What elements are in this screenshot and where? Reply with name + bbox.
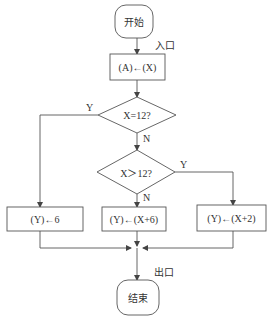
entry-label: 入口 bbox=[155, 41, 175, 51]
assign-label: (A)←(X) bbox=[110, 54, 165, 80]
decision-gt-label: X＞12? bbox=[97, 150, 175, 194]
start-label: 开始 bbox=[115, 5, 153, 38]
gt-yes-label: Y bbox=[180, 160, 187, 170]
proc-left-label: (Y)←6 bbox=[7, 207, 83, 231]
edge-gt-yes bbox=[175, 172, 233, 205]
edge-eq-yes bbox=[40, 115, 98, 207]
gt-no-label: N bbox=[143, 193, 150, 203]
eq-yes-label: Y bbox=[86, 103, 93, 113]
edge-right-merge bbox=[143, 231, 233, 248]
exit-label: 出口 bbox=[154, 268, 174, 278]
edge-left-merge bbox=[40, 231, 131, 248]
end-label: 结束 bbox=[117, 280, 159, 315]
proc-mid-label: (Y)←(X+6) bbox=[102, 207, 166, 231]
proc-right-label: (Y)←(X+2) bbox=[197, 205, 266, 231]
decision-eq-label: X=12? bbox=[98, 97, 176, 133]
eq-no-label: N bbox=[143, 134, 150, 144]
